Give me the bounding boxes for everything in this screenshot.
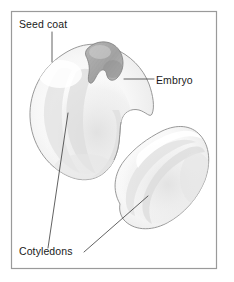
seed-lower-right: [115, 126, 212, 228]
label-cotyledons: Cotyledons: [19, 245, 73, 257]
label-embryo: Embryo: [156, 74, 193, 86]
embryo-highlight: [89, 45, 111, 59]
diagram-canvas: Seed coat Embryo Cotyledons: [0, 0, 234, 282]
shade-bottom: [54, 154, 114, 182]
seed-diagram-figure: Seed coat Embryo Cotyledons: [0, 0, 234, 282]
label-seed-coat: Seed coat: [19, 18, 67, 30]
highlight-top-left: [38, 60, 82, 88]
lower-shade-right: [180, 152, 212, 204]
